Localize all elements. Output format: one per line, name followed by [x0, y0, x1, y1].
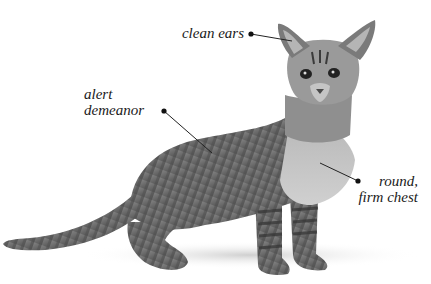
ground-shadow	[80, 241, 420, 269]
label-round-firm-chest: round, firm chest	[346, 173, 418, 205]
label-text-line-1: round,	[346, 173, 418, 189]
annotated-cat-figure: clean ears alert demeanor round, firm ch…	[0, 0, 431, 284]
callout-dot-icon	[161, 108, 166, 113]
label-text-line-2: firm chest	[346, 189, 418, 205]
label-text: clean ears	[182, 25, 244, 41]
callout-dot-icon	[248, 31, 253, 36]
cat-illustration	[0, 0, 431, 284]
label-clean-ears: clean ears	[150, 25, 244, 41]
label-text-line-1: alert	[84, 86, 144, 102]
label-alert-demeanor: alert demeanor	[84, 86, 144, 118]
label-text-line-2: demeanor	[84, 102, 144, 118]
cat-tail	[3, 188, 150, 250]
